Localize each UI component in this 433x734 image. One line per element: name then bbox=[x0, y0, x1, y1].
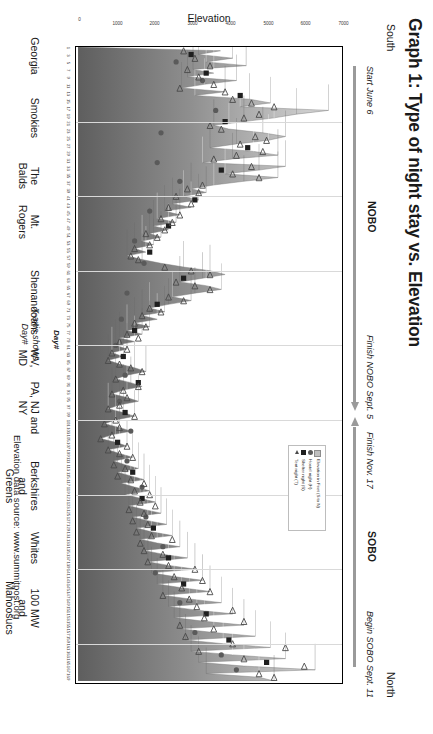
x-axis-tick-label: 89 bbox=[66, 375, 71, 380]
x-axis-tick-label: 105 bbox=[66, 435, 71, 442]
shelter-night-marker bbox=[115, 440, 120, 445]
x-axis-tick-label: 87 bbox=[66, 367, 71, 372]
shelter-night-marker bbox=[151, 526, 156, 531]
x-axis-tick-label: 79 bbox=[66, 338, 71, 343]
y-axis-tick-label: 1000 bbox=[112, 21, 122, 26]
region-label: Georgia bbox=[29, 26, 41, 86]
x-axis-tick-label: 15 bbox=[66, 99, 71, 104]
tent-night-marker bbox=[135, 335, 141, 341]
hostel-night-marker bbox=[147, 209, 152, 214]
x-axis-tick-label: 35 bbox=[66, 174, 71, 179]
x-axis-tick-label: 47 bbox=[66, 218, 71, 223]
legend-square-swatch bbox=[300, 450, 306, 457]
hostel-night-marker bbox=[158, 130, 163, 135]
legend-area-swatch bbox=[315, 450, 321, 457]
shelter-night-marker bbox=[219, 168, 224, 173]
x-axis-tick-label: 73 bbox=[66, 315, 71, 320]
hostel-night-marker bbox=[174, 59, 179, 64]
x-axis-tick-label: 93 bbox=[66, 390, 71, 395]
x-axis-tick-label: 59 bbox=[66, 263, 71, 268]
x-axis-tick-label: 3 bbox=[66, 54, 71, 56]
x-axis-tick-label: 49 bbox=[66, 226, 71, 231]
x-axis-tick-label: 149 bbox=[66, 599, 71, 606]
tent-night-marker bbox=[301, 663, 307, 669]
x-axis-tick-label: 121 bbox=[66, 494, 71, 501]
chart-plot-area: Elevation in Feet (S to N)Hostel night (… bbox=[75, 46, 343, 684]
x-axis-tick-label: 159 bbox=[66, 636, 71, 643]
square-marker-icon bbox=[301, 450, 306, 455]
x-axis-tick-label: 109 bbox=[66, 450, 71, 457]
y-axis-tick-label: 2000 bbox=[150, 21, 160, 26]
hostel-night-marker bbox=[219, 652, 224, 657]
shelter-night-marker bbox=[123, 410, 128, 415]
region-label-line: Berkshires bbox=[29, 456, 41, 516]
x-axis-tick-label: 111 bbox=[66, 457, 71, 463]
shelter-night-marker bbox=[226, 637, 231, 642]
annotation-finish-sobo: Finish Nov. 17 bbox=[365, 432, 375, 489]
y-axis-tick-label: 5000 bbox=[263, 21, 273, 26]
annotation-sobo: SOBO bbox=[366, 531, 378, 562]
x-axis-tick-label: 57 bbox=[66, 256, 71, 261]
shelter-night-marker bbox=[189, 52, 194, 57]
x-axis-tick-label: 123 bbox=[66, 502, 71, 509]
x-axis-tick-label: 19 bbox=[66, 114, 71, 119]
x-axis-tick-label: 125 bbox=[66, 509, 71, 516]
sobo-direction-arrow bbox=[350, 417, 359, 667]
legend-item[interactable]: Hostel night (H) bbox=[307, 450, 313, 526]
legend-item-label: Shelter night (S) bbox=[300, 459, 306, 491]
x-axis-tick-label: 101 bbox=[66, 420, 71, 427]
y-axis-tick-label: 6000 bbox=[301, 21, 311, 26]
x-axis-tick-label: 39 bbox=[66, 188, 71, 193]
x-axis-tick-label: 81 bbox=[66, 345, 71, 350]
x-axis-tick-label: 37 bbox=[66, 181, 71, 186]
annotation-finish-nobo: Finish NOBO Sept. 5 bbox=[365, 335, 375, 419]
legend-item[interactable]: Tent night (T) bbox=[293, 450, 299, 526]
x-axis-tick-label: 153 bbox=[66, 614, 71, 621]
nobo-direction-arrow bbox=[350, 66, 359, 412]
region-label-line: 100 MW bbox=[29, 578, 41, 638]
shelter-night-marker bbox=[192, 197, 197, 202]
x-axis-tick-label: 61 bbox=[66, 270, 71, 275]
legend-circle-swatch bbox=[307, 450, 313, 457]
x-axis-tick-label: 145 bbox=[66, 584, 71, 591]
compass-label-north: North bbox=[385, 672, 397, 698]
x-axis-tick-label: 67 bbox=[66, 293, 71, 298]
x-axis-tick-label: 23 bbox=[66, 129, 71, 134]
region-label: PA, NJ and NY bbox=[16, 378, 41, 438]
x-axis-tick-label: 97 bbox=[66, 405, 71, 410]
x-axis-tick-label: 115 bbox=[66, 472, 71, 479]
shelter-night-marker bbox=[264, 660, 269, 665]
rotated-canvas: Graph 1: Type of night stay vs. Elevatio… bbox=[0, 0, 433, 734]
x-axis-tick-label: 13 bbox=[66, 91, 71, 96]
gridline-vertical bbox=[76, 122, 342, 123]
x-axis-tick-label: 129 bbox=[66, 524, 71, 531]
shelter-night-marker bbox=[166, 555, 171, 560]
chart-legend: Elevation in Feet (S to N)Hostel night (… bbox=[288, 445, 326, 531]
x-axis-tick-label: 31 bbox=[66, 159, 71, 164]
source-note: Elevation data source: www.summitpost.or… bbox=[12, 435, 23, 619]
gridline-vertical bbox=[76, 420, 342, 421]
legend-item[interactable]: Elevation in Feet (S to N) bbox=[315, 450, 321, 526]
legend-item[interactable]: Shelter night (S) bbox=[300, 450, 306, 526]
gridline-vertical bbox=[76, 345, 342, 346]
region-label: Mt.Rogers bbox=[16, 192, 41, 252]
x-axis-tick-label: 83 bbox=[66, 353, 71, 358]
x-axis-tick-label: 69 bbox=[66, 300, 71, 305]
x-axis-tick-label: 9 bbox=[66, 77, 71, 79]
x-axis-tick-label: 7 bbox=[66, 69, 71, 71]
x-axis-tick-label: 141 bbox=[66, 569, 71, 576]
x-axis-tick-label: 53 bbox=[66, 241, 71, 246]
x-axis-tick-label: 131 bbox=[66, 532, 71, 539]
region-label-line: Whites bbox=[29, 518, 41, 578]
hostel-night-marker bbox=[141, 261, 146, 266]
y-axis-label: Elevation bbox=[187, 12, 230, 24]
x-axis-tick-label: 119 bbox=[66, 487, 71, 494]
region-label: Whites bbox=[29, 518, 41, 578]
region-label-line: PA, NJ and NY bbox=[16, 378, 41, 438]
x-axis-tick-label: 71 bbox=[66, 308, 71, 313]
x-axis-tick-label: 155 bbox=[66, 621, 71, 628]
x-axis-tick-label: 25 bbox=[66, 136, 71, 141]
x-axis-label: Day# bbox=[52, 330, 61, 349]
gridline-vertical bbox=[76, 271, 342, 272]
hostel-night-marker bbox=[160, 544, 165, 549]
